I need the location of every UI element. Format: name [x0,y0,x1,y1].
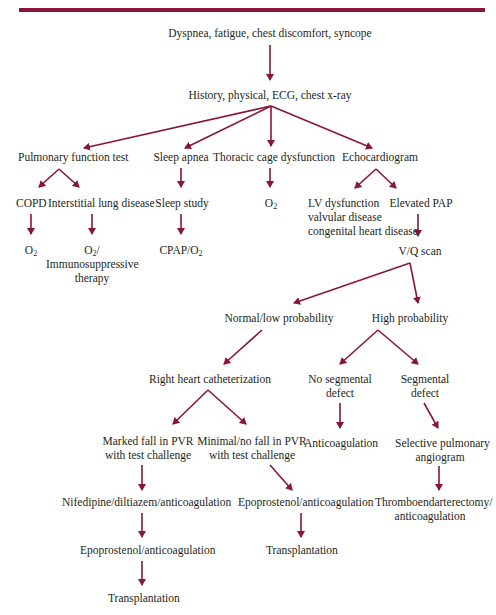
node-pulmonary-function-test: Pulmonary function test [18,150,118,164]
node-minimal-fall-pvr: Minimal/no fall in PVR with test challen… [196,434,308,462]
node-vq-scan: V/Q scan [395,244,445,258]
node-sleep-study: Sleep study [155,196,209,210]
node-thoracic-cage: Thoracic cage dysfunction [213,150,327,164]
node-interstitial-lung-disease: Interstitial lung disease [48,196,146,210]
node-epoprostenol-right: Epoprostenol/anticoagulation [238,495,364,509]
node-o2-thoracic: O2 [262,196,280,210]
node-high-probability: High probability [370,311,450,325]
node-selective-pulmonary-angiogram: Selective pulmonary angiogram [395,436,485,464]
node-symptoms: Dyspnea, fatigue, chest discomfort, sync… [150,26,390,40]
node-segmental-defect: Segmental defect [395,372,455,400]
node-o2-immunosuppressive: O2/ Immunosuppressive therapy [46,243,138,285]
node-elevated-pap: Elevated PAP [388,196,454,210]
node-thromboendarterectomy: Thromboendarterectomy/ anticoagulation [375,495,485,523]
node-cpap: CPAP/O2 [156,243,206,257]
node-marked-fall-pvr: Marked fall in PVR with test challenge [98,434,198,462]
node-workup: History, physical, ECG, chest x-ray [170,88,370,102]
node-nifedipine-diltiazem: Nifedipine/diltiazem/anticoagulation [62,495,224,509]
node-o2-copd: O2 [22,243,40,257]
header-rule [19,8,485,12]
node-copd: COPD [16,196,46,210]
node-sleep-apnea: Sleep apnea [151,150,211,164]
node-no-segmental-defect: No segmental defect [305,372,375,400]
node-normal-low-probability: Normal/low probability [224,311,334,325]
node-epoprostenol-left: Epoprostenol/anticoagulation [80,543,206,557]
node-transplantation-right: Transplantation [266,543,336,557]
node-transplantation-left: Transplantation [108,591,178,605]
node-anticoagulation: Anticoagulation [304,436,378,450]
node-right-heart-catheterization: Right heart catheterization [140,372,280,386]
node-echocardiogram: Echocardiogram [340,150,420,164]
